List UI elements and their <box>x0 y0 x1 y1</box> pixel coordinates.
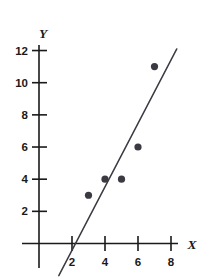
x-axis-label: X <box>186 237 197 252</box>
data-point <box>118 176 125 183</box>
data-point <box>151 63 158 70</box>
chart-canvas: 12 10 8 6 4 2 2 4 6 8 Y X <box>0 0 208 280</box>
x-tick-label-2: 2 <box>69 256 75 268</box>
data-points-group <box>85 63 158 199</box>
y-tick-label-2: 2 <box>22 205 28 217</box>
x-tick-label-8: 8 <box>168 256 175 268</box>
x-tick-label-6: 6 <box>135 256 141 268</box>
y-axis-label: Y <box>39 26 49 41</box>
y-tick-label-8: 8 <box>22 109 29 121</box>
y-tick-labels: 12 10 8 6 4 2 <box>15 45 28 218</box>
scatter-plot-figure: 12 10 8 6 4 2 2 4 6 8 Y X <box>0 0 208 280</box>
data-point <box>85 192 92 199</box>
line-of-best-fit <box>59 49 177 276</box>
y-tick-label-10: 10 <box>15 77 28 89</box>
y-tick-label-6: 6 <box>22 141 28 153</box>
axes-group <box>22 45 178 268</box>
data-point <box>101 176 108 183</box>
data-point <box>134 143 141 150</box>
x-tick-label-4: 4 <box>102 256 109 268</box>
y-tick-label-4: 4 <box>22 173 29 185</box>
x-tick-labels: 2 4 6 8 <box>69 256 175 268</box>
y-tick-label-12: 12 <box>15 45 28 57</box>
